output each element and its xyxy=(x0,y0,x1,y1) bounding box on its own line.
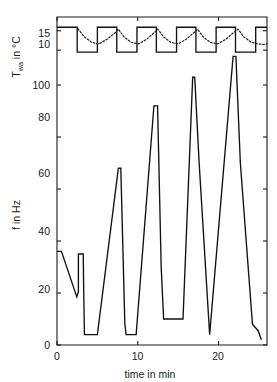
y-tick-label-20: 20 xyxy=(38,283,50,295)
y-tick-label-60: 60 xyxy=(38,167,50,179)
y-axis-label-temperature-sub: wa xyxy=(16,62,25,72)
y-axis-label-temperature-unit: in °C xyxy=(10,36,22,62)
y-tick-label-10: 10 xyxy=(38,38,50,50)
y-tick-label-0: 0 xyxy=(44,339,50,351)
chart-canvas: 0 10 20 15 10 100 80 60 40 20 0 time in … xyxy=(0,0,277,382)
x-tick-label-0: 0 xyxy=(54,350,60,362)
chart-figure: 0 10 20 15 10 100 80 60 40 20 0 time in … xyxy=(0,0,277,382)
x-tick-label-20: 20 xyxy=(212,350,224,362)
y-axis-label-frequency-group: f in Hz xyxy=(10,200,22,230)
y-tick-label-80: 80 xyxy=(38,111,50,123)
y-tick-label-100: 100 xyxy=(32,79,50,91)
x-axis-label: time in min xyxy=(125,368,176,380)
y-axis-label-frequency: f in Hz xyxy=(10,200,22,230)
y-tick-label-40: 40 xyxy=(38,225,50,237)
x-tick-label-10: 10 xyxy=(132,350,144,362)
